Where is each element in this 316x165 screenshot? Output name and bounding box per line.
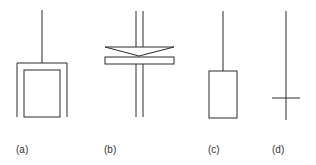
panel-a-drawing — [17, 10, 67, 117]
panel-b-label: (b) — [104, 144, 116, 156]
panel-b-plate — [105, 57, 174, 64]
panel-d-drawing — [272, 11, 300, 120]
geometry-diagram — [0, 0, 316, 165]
panel-a-label: (a) — [16, 144, 28, 156]
panel-b-drawing — [105, 11, 174, 117]
panel-c-label: (c) — [208, 144, 220, 156]
panel-a-inner-bob — [24, 70, 60, 117]
panel-d-label: (d) — [272, 144, 284, 156]
panel-c-cylinder-bob — [209, 71, 237, 118]
panel-c-drawing — [209, 11, 237, 118]
panel-b-cone — [105, 47, 174, 56]
